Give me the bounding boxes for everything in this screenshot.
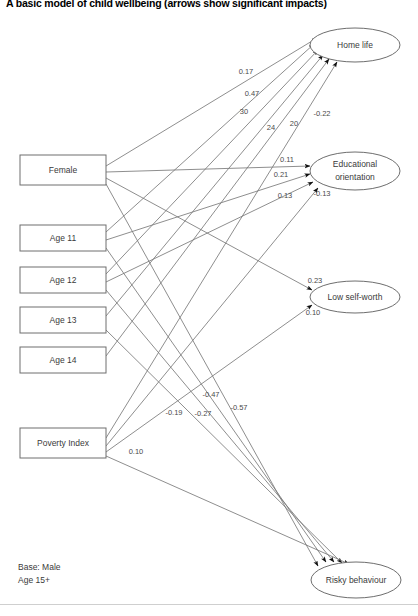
edge-label-female-home: 0.17	[239, 67, 254, 76]
footer-divider	[0, 604, 418, 605]
edge-label-poverty-lowself: 0.10	[306, 308, 321, 317]
predictors-group: Female Age 11 Age 12 Age 13 Age 14 Pover…	[20, 155, 106, 458]
diagram-canvas: A basic model of child wellbeing (arrows…	[0, 0, 418, 616]
node-age14-label: Age 14	[50, 355, 77, 365]
node-female[interactable]: Female	[20, 155, 106, 185]
edge-label-poverty-edu: -0.13	[313, 189, 330, 198]
edge-age11-edu	[106, 174, 310, 240]
edge-label-age13-risky: -0.57	[230, 403, 247, 412]
node-educational-orientation[interactable]: Educational orientation	[310, 152, 400, 190]
node-home-life[interactable]: Home life	[310, 28, 400, 62]
node-age12[interactable]: Age 12	[20, 267, 106, 293]
edge-age11-home	[106, 44, 314, 232]
edge-label-female-edu: 0.11	[280, 155, 294, 164]
edge-poverty-edu	[106, 188, 318, 446]
node-age13-label: Age 13	[50, 315, 77, 325]
edge-label-female-risky: -0.47	[202, 390, 219, 399]
node-risky-behaviour[interactable]: Risky behaviour	[311, 562, 401, 598]
node-age11[interactable]: Age 11	[20, 225, 106, 251]
edge-age13-home	[106, 55, 323, 316]
base-note-line1: Base: Male	[18, 561, 61, 574]
edge-label-age12-risky: -0.27	[194, 409, 211, 418]
edge-label-age13-home: 24	[267, 123, 275, 132]
edge-age14-home	[106, 59, 329, 356]
node-age13[interactable]: Age 13	[20, 307, 106, 333]
edge-label-poverty-risky: 0.10	[129, 447, 144, 456]
edge-label-female-lowself: 0.23	[308, 276, 323, 285]
edge-label-age11-risky: -0.19	[165, 408, 182, 417]
edge-label-age12-edu: 0.13	[278, 191, 293, 200]
edge-poverty-home	[106, 62, 337, 438]
node-low-self-worth-label: Low self-worth	[328, 292, 383, 302]
node-age14[interactable]: Age 14	[20, 347, 106, 373]
edge-label-age12-home: 30	[240, 107, 248, 116]
node-educational-orientation-label-line2: orientation	[335, 172, 375, 182]
path-model-diagram: Female Age 11 Age 12 Age 13 Age 14 Pover…	[0, 0, 418, 616]
edge-label-age11-home: 0.47	[245, 89, 260, 98]
edge-label-poverty-home: -0.22	[313, 109, 330, 118]
node-low-self-worth[interactable]: Low self-worth	[310, 281, 400, 313]
edge-poverty-risky	[106, 456, 349, 564]
node-educational-orientation-label-line1: Educational	[333, 159, 378, 169]
node-age11-label: Age 11	[50, 233, 77, 243]
node-poverty-index[interactable]: Poverty Index	[20, 428, 106, 458]
node-risky-behaviour-label: Risky behaviour	[326, 575, 387, 585]
base-note-line2: Age 15+	[18, 574, 61, 587]
edge-label-age14-home: 20	[290, 119, 298, 128]
node-age12-label: Age 12	[50, 275, 77, 285]
base-note: Base: Male Age 15+	[18, 561, 61, 586]
node-home-life-label: Home life	[337, 40, 373, 50]
edge-female-risky	[106, 184, 318, 566]
edge-label-age11-edu: 0.21	[274, 170, 289, 179]
node-female-label: Female	[49, 165, 78, 175]
edge-labels-group: 0.17 0.47 30 24 20 -0.22 0.11 0.21 0.13 …	[129, 67, 331, 456]
node-poverty-index-label: Poverty Index	[37, 438, 90, 448]
